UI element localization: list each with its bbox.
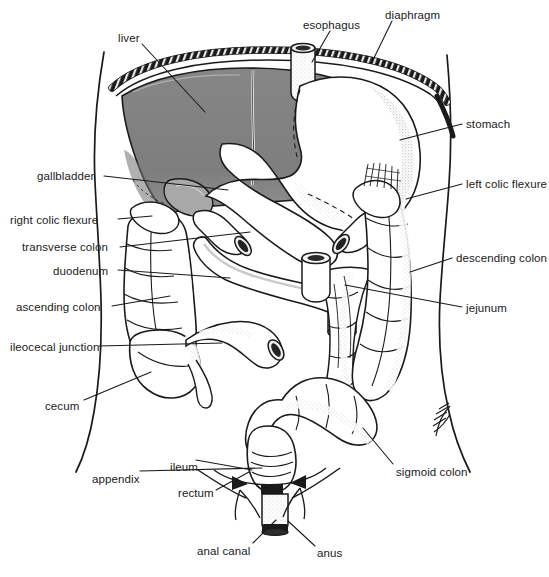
label-transverse-colon: transverse colon	[22, 241, 108, 254]
anatomy-diagram: liveresophagusdiaphragmstomachleft colic…	[0, 0, 549, 577]
leader-diaphragm	[372, 21, 392, 62]
label-esophagus: esophagus	[303, 19, 360, 32]
leader-sigmoid-colon	[363, 428, 393, 464]
label-ascending-colon: ascending colon	[16, 301, 101, 314]
leader-descending-colon	[410, 258, 452, 272]
label-right-colic-flexure: right colic flexure	[10, 214, 98, 227]
label-gallbladder: gallbladder	[37, 170, 94, 183]
label-rectum: rectum	[178, 487, 214, 500]
leader-anus	[288, 521, 315, 546]
label-liver: liver	[118, 32, 140, 45]
leader-appendix	[140, 468, 262, 471]
ileum	[186, 322, 287, 369]
label-anus: anus	[317, 547, 342, 560]
label-left-colic-flexure: left colic flexure	[466, 178, 547, 191]
label-diaphragm: diaphragm	[385, 9, 440, 22]
label-descending-colon: descending colon	[456, 252, 547, 265]
label-cecum: cecum	[45, 400, 79, 413]
leader-cecum	[84, 372, 151, 400]
label-stomach: stomach	[466, 118, 510, 131]
anatomy-illustration	[0, 0, 549, 577]
label-sigmoid-colon: sigmoid colon	[396, 466, 468, 479]
label-ileocecal-junction: ileocecal junction	[10, 341, 99, 354]
artist-signature	[433, 403, 450, 436]
label-appendix: appendix	[92, 473, 139, 486]
label-ileum: ileum	[170, 461, 198, 474]
label-jejunum: jejunum	[466, 302, 507, 315]
label-anal-canal: anal canal	[197, 545, 250, 558]
label-duodenum: duodenum	[53, 265, 108, 278]
